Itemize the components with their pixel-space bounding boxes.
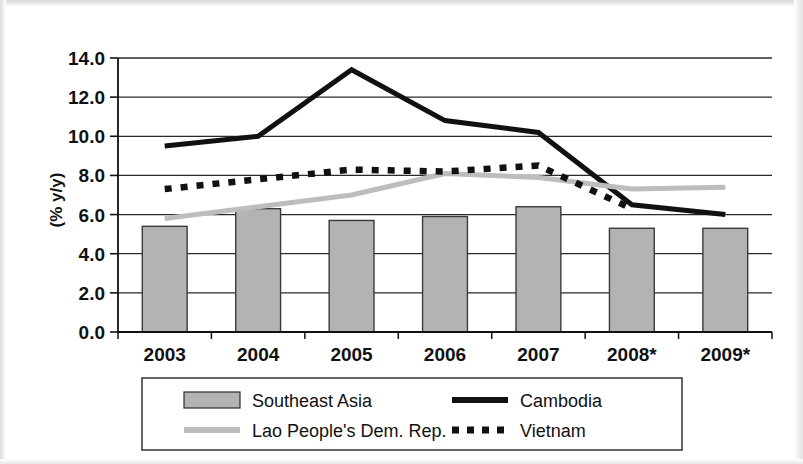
x-tick-label: 2006 [424, 344, 466, 365]
legend-label: Lao People's Dem. Rep. [252, 421, 447, 441]
y-axis-title: (% y/y) [47, 173, 66, 228]
y-tick-label: 6.0 [79, 205, 105, 226]
bar [609, 228, 654, 332]
bar [142, 226, 187, 332]
growth-rate-chart: 0.02.04.06.08.010.012.014.0 200320042005… [0, 0, 803, 464]
x-tick-label: 2008* [607, 344, 657, 365]
x-tick-label: 2005 [330, 344, 373, 365]
legend-label: Vietnam [520, 421, 586, 441]
legend-label: Cambodia [520, 391, 603, 411]
y-axis-title-group: (% y/y) [47, 173, 66, 228]
x-tick-labels-group: 200320042005200620072008*2009* [144, 344, 751, 365]
bar [329, 220, 374, 332]
y-tick-label: 2.0 [79, 283, 105, 304]
x-tick-label: 2003 [144, 344, 186, 365]
y-tick-label: 0.0 [79, 322, 105, 343]
bar [423, 217, 468, 332]
y-tick-label: 14.0 [68, 48, 105, 69]
legend-label: Southeast Asia [252, 391, 373, 411]
legend-item: Southeast Asia [184, 391, 373, 411]
y-tick-label: 12.0 [68, 87, 105, 108]
y-tick-label: 4.0 [79, 244, 105, 265]
legend-group: Southeast AsiaCambodiaLao People's Dem. … [142, 378, 682, 450]
legend-swatch-bar-icon [184, 392, 240, 408]
line-series-vietnam [165, 166, 632, 209]
bar [703, 228, 748, 332]
x-tick-label: 2009* [700, 344, 750, 365]
x-tick-label: 2004 [237, 344, 280, 365]
y-tick-labels-group: 0.02.04.06.08.010.012.014.0 [68, 48, 105, 343]
y-tick-label: 8.0 [79, 165, 105, 186]
bars-group [142, 207, 747, 332]
bar [516, 207, 561, 332]
x-tick-label: 2007 [517, 344, 559, 365]
bar [236, 209, 281, 332]
y-tick-label: 10.0 [68, 126, 105, 147]
chart-figure: 0.02.04.06.08.010.012.014.0 200320042005… [0, 0, 803, 464]
line-series-cambodia [165, 70, 726, 215]
lines-group [165, 70, 726, 219]
